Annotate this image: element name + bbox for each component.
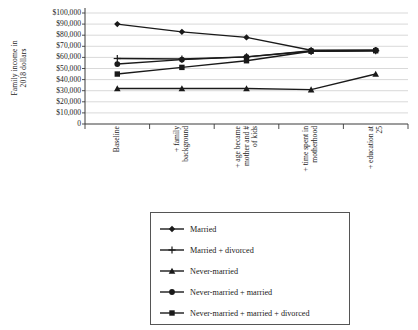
legend-label: Married + divorced: [190, 246, 254, 255]
x-axis-tick-label-line: + education at: [367, 126, 376, 206]
x-axis-tick-labels: Baseline+ familybackground+ age becamemo…: [0, 126, 418, 210]
x-axis-tick-label-line: + age became: [234, 126, 243, 206]
data-point-square: [115, 71, 120, 76]
data-point-circle: [114, 61, 120, 67]
series-0: [114, 21, 379, 53]
legend-label: Married: [190, 225, 216, 234]
data-point-triangle: [372, 71, 379, 77]
x-axis-tick-label-line: background: [182, 126, 191, 206]
legend-item-plus[interactable]: Married + divorced: [159, 243, 254, 257]
data-point-square: [373, 48, 378, 53]
legend-marker-circle-icon: [159, 286, 185, 298]
data-point-square: [244, 58, 249, 63]
data-point-diamond: [179, 29, 185, 35]
legend-marker-diamond-icon: [159, 223, 185, 235]
legend-marker-square-icon: [159, 307, 185, 319]
legend-label: Never-married + married: [190, 288, 272, 297]
chart-legend: MarriedMarried + divorcedNever-marriedNe…: [150, 212, 350, 325]
data-point-square: [179, 65, 184, 70]
legend-item-square[interactable]: Never-married + married + divorced: [159, 306, 310, 320]
data-point-diamond: [114, 21, 120, 27]
data-point-square: [308, 49, 313, 54]
series-2: [114, 71, 379, 93]
legend-label: Never-married + married + divorced: [190, 309, 310, 318]
x-axis-tick-label-line: 25: [376, 126, 385, 206]
legend-label: Never-married: [190, 267, 238, 276]
chart-figure: Family income in 2018 dollars 0$10,000$2…: [0, 0, 418, 330]
data-point-square: [169, 310, 174, 315]
data-point-plus: [114, 55, 121, 62]
series-4: [115, 48, 379, 77]
data-point-circle: [169, 289, 175, 295]
x-axis-tick-label-line: of kids: [251, 126, 260, 206]
x-axis-tick-label: + education at25: [376, 128, 418, 208]
legend-item-circle[interactable]: Never-married + married: [159, 285, 272, 299]
legend-item-diamond[interactable]: Married: [159, 222, 216, 236]
data-point-circle: [179, 57, 185, 63]
legend-item-triangle[interactable]: Never-married: [159, 264, 238, 278]
x-axis-tick-label-line: motherhood: [311, 126, 320, 206]
legend-marker-triangle-icon: [159, 265, 185, 277]
x-axis-tick-label-line: Baseline: [113, 126, 122, 206]
legend-marker-plus-icon: [159, 244, 185, 256]
data-point-diamond: [169, 226, 175, 232]
data-point-plus: [168, 246, 175, 253]
